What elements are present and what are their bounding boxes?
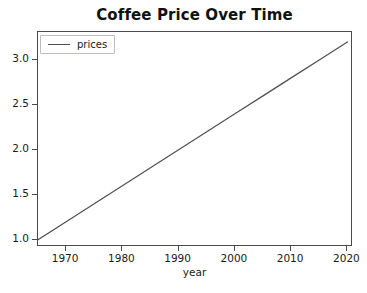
line-series-svg (38, 32, 353, 247)
y-tick-mark (32, 104, 37, 105)
series-line-prices (38, 42, 347, 240)
chart-legend: prices (40, 35, 115, 54)
y-tick-mark (32, 194, 37, 195)
legend-item-label: prices (77, 39, 107, 50)
y-tick-mark (32, 239, 37, 240)
y-tick-label: 2.5 (3, 97, 29, 109)
x-tick-label: 2020 (326, 252, 366, 264)
x-tick-label: 1980 (101, 252, 141, 264)
y-tick-mark (32, 149, 37, 150)
x-tick-label: 2000 (214, 252, 254, 264)
x-tick-mark (234, 246, 235, 251)
legend-line-swatch (48, 44, 70, 46)
y-tick-label: 3.0 (3, 52, 29, 64)
x-tick-mark (65, 246, 66, 251)
y-tick-label: 1.0 (3, 232, 29, 244)
plot-area (37, 31, 352, 246)
y-tick-label: 1.5 (3, 187, 29, 199)
page-title: Coffee Price Over Time (37, 6, 352, 24)
x-tick-mark (178, 246, 179, 251)
x-tick-mark (346, 246, 347, 251)
x-tick-label: 2010 (270, 252, 310, 264)
y-tick-mark (32, 59, 37, 60)
x-tick-label: 1970 (45, 252, 85, 264)
matplotlib-figure: Coffee Price Over Time prices 1.01.52.02… (0, 0, 367, 293)
x-tick-mark (121, 246, 122, 251)
x-tick-mark (290, 246, 291, 251)
y-tick-label: 2.0 (3, 142, 29, 154)
x-axis-label: year (37, 266, 352, 278)
x-tick-label: 1990 (158, 252, 198, 264)
